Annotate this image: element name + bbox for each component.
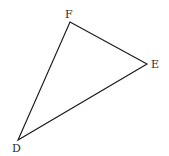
vertex-label-d: D xyxy=(12,142,21,155)
triangle-diagram: F E D xyxy=(0,0,169,156)
vertex-label-f: F xyxy=(65,8,73,21)
triangle-def xyxy=(18,22,147,140)
vertex-label-e: E xyxy=(151,58,159,71)
